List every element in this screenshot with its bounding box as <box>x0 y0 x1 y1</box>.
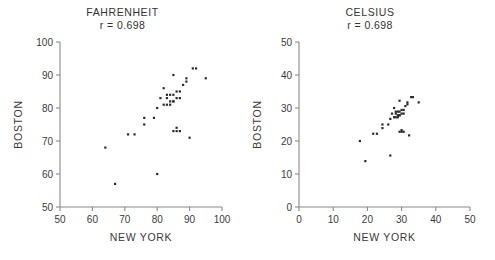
data-point <box>192 67 194 69</box>
plot-area-celsius: 0102030405001020304050NEW YORKBOSTON <box>245 0 495 260</box>
data-point <box>133 133 135 135</box>
y-tick-label: 50 <box>42 202 54 213</box>
data-point <box>381 127 383 129</box>
x-tick-label: 30 <box>396 214 408 225</box>
data-point <box>163 87 165 89</box>
y-tick-label: 50 <box>281 37 293 48</box>
data-point <box>403 109 405 111</box>
data-point <box>401 113 403 115</box>
data-point <box>372 133 374 135</box>
data-point <box>403 113 405 115</box>
data-point <box>401 109 403 111</box>
x-tick-label: 90 <box>184 214 196 225</box>
x-tick-label: 50 <box>464 214 476 225</box>
data-point <box>169 100 171 102</box>
data-point <box>166 97 168 99</box>
x-tick-label: 70 <box>119 214 131 225</box>
data-point <box>176 127 178 129</box>
data-point <box>114 183 116 185</box>
x-tick-label: 10 <box>328 214 340 225</box>
data-point <box>169 94 171 96</box>
panel-celsius: CELSIUS r = 0.698 0102030405001020304050… <box>245 0 495 260</box>
data-point <box>395 111 397 113</box>
data-point <box>398 100 400 102</box>
y-tick-label: 90 <box>42 70 54 81</box>
data-point <box>172 130 174 132</box>
data-point <box>185 77 187 79</box>
x-tick-label: 80 <box>152 214 164 225</box>
data-point <box>179 130 181 132</box>
data-point <box>176 97 178 99</box>
data-point <box>406 101 408 103</box>
data-point <box>195 67 197 69</box>
data-point <box>127 133 129 135</box>
data-point <box>376 133 378 135</box>
data-point <box>205 77 207 79</box>
data-point <box>156 173 158 175</box>
data-point <box>156 107 158 109</box>
y-tick-label: 100 <box>36 37 53 48</box>
data-point <box>359 140 361 142</box>
x-tick-label: 40 <box>430 214 442 225</box>
y-axis-title: BOSTON <box>251 100 263 148</box>
data-point <box>172 100 174 102</box>
y-tick-label: 70 <box>42 136 54 147</box>
data-point <box>387 123 389 125</box>
data-point <box>143 117 145 119</box>
data-point <box>163 104 165 106</box>
data-point <box>381 123 383 125</box>
data-point <box>153 117 155 119</box>
data-point <box>172 94 174 96</box>
y-tick-label: 60 <box>42 169 54 180</box>
data-point <box>185 81 187 83</box>
data-point <box>412 96 414 98</box>
panel-fahrenheit: FAHRENHEIT r = 0.698 5060708090100506070… <box>0 0 245 260</box>
figure-scatter-plots: FAHRENHEIT r = 0.698 5060708090100506070… <box>0 0 495 260</box>
data-point <box>404 105 406 107</box>
y-tick-label: 0 <box>286 202 292 213</box>
data-point <box>408 134 410 136</box>
data-point <box>176 130 178 132</box>
data-point <box>364 160 366 162</box>
data-point <box>166 94 168 96</box>
data-point <box>397 116 399 118</box>
data-point <box>166 104 168 106</box>
data-point <box>179 97 181 99</box>
x-tick-label: 100 <box>214 214 231 225</box>
data-point <box>393 107 395 109</box>
data-point <box>172 74 174 76</box>
x-tick-label: 50 <box>54 214 66 225</box>
x-axis-title: NEW YORK <box>110 231 173 243</box>
data-point <box>179 90 181 92</box>
data-point <box>143 123 145 125</box>
data-point <box>182 84 184 86</box>
data-point <box>159 97 161 99</box>
y-tick-label: 30 <box>281 103 293 114</box>
data-point <box>389 118 391 120</box>
x-axis-title: NEW YORK <box>353 231 416 243</box>
y-axis-title: BOSTON <box>12 100 24 148</box>
data-point <box>395 113 397 115</box>
data-point <box>398 111 400 113</box>
y-tick-label: 20 <box>281 136 293 147</box>
data-point <box>403 131 405 133</box>
x-tick-label: 20 <box>362 214 374 225</box>
y-tick-label: 40 <box>281 70 293 81</box>
data-point <box>176 90 178 92</box>
data-point <box>189 137 191 139</box>
data-point <box>398 114 400 116</box>
data-point <box>395 116 397 118</box>
data-point <box>104 147 106 149</box>
data-point <box>401 129 403 131</box>
y-tick-label: 80 <box>42 103 54 114</box>
data-point <box>389 154 391 156</box>
x-tick-label: 60 <box>87 214 99 225</box>
plot-area-fahrenheit: 50607080901005060708090100NEW YORKBOSTON <box>0 0 245 260</box>
y-tick-label: 10 <box>281 169 293 180</box>
data-point <box>391 113 393 115</box>
x-tick-label: 0 <box>296 214 302 225</box>
data-point <box>418 101 420 103</box>
data-point <box>398 131 400 133</box>
data-point <box>406 103 408 105</box>
data-point <box>169 104 171 106</box>
